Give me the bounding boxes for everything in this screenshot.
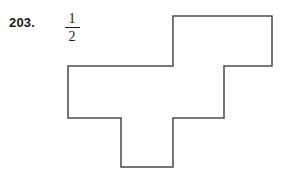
cross-step-polygon-outline [68,16,272,167]
worksheet-figure-page: 203. 1 2 [0,0,286,182]
cross-step-polygon-figure [0,0,286,182]
